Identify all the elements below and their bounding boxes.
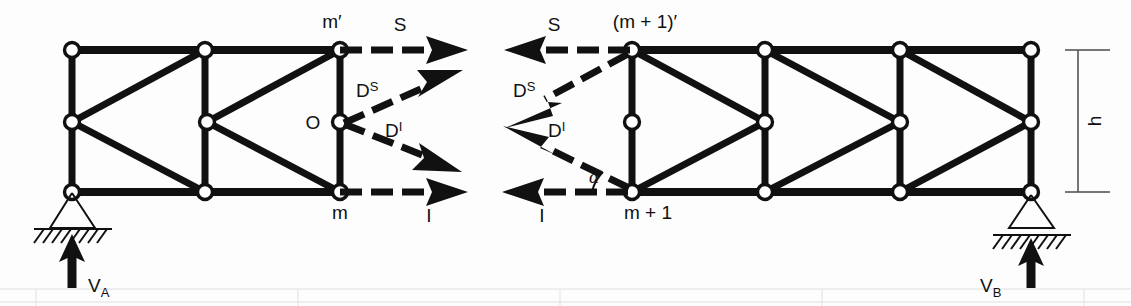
label-reaction-b: VB [980,275,1001,300]
label-reaction-a-base: V [88,275,101,296]
left-diagonal-b [72,122,205,192]
node-right-mid-2 [893,115,908,130]
label-force-s-left: S [394,14,407,35]
support-a [34,193,112,288]
label-alpha: α [589,166,600,187]
node-left-bottom-1 [198,185,213,200]
label-height-h: h [1084,116,1105,127]
node-left-mid-1 [200,115,215,130]
right-diagonal-c [765,50,900,122]
node-right-mid-0 [625,115,640,130]
label-force-di-left: DI [385,119,402,141]
force-ds-left-head [417,70,463,97]
force-i-left-head [426,178,468,206]
support-b [993,195,1071,288]
force-s-right-head [504,36,546,64]
label-reaction-b-base: V [980,275,993,296]
node-left-top-0 [65,43,80,58]
right-diagonal-f [900,122,1031,192]
node-right-mid-1 [758,115,773,130]
label-mp1-prime: (m + 1)′ [613,11,678,32]
label-reaction-a-sub: A [101,285,110,300]
left-diagonal-a [72,50,205,122]
label-reaction-b-sub: B [993,285,1002,300]
label-force-di-right-sup: I [562,119,566,134]
force-ds-right-shaft [545,54,628,99]
node-right-bottom-1 [758,185,773,200]
label-o: O [306,112,321,133]
label-m-prime: m′ [322,11,342,32]
force-i-right-head [502,178,544,206]
left-section-forces [340,36,468,206]
node-left-bottom-0 [65,185,80,200]
label-force-ds-left-base: D [356,80,370,101]
label-reaction-a: VA [88,275,110,300]
node-left-top-1 [198,43,213,58]
label-force-ds-right-sup: S [527,79,536,94]
figure-canvas: m′ m O (m + 1)′ m + 1 S I DS DI S I DS D… [0,0,1131,306]
node-right-bottom-2 [893,185,908,200]
right-section-forces [502,36,630,206]
label-force-ds-right: DS [513,79,536,101]
right-diagonal-a [632,50,765,122]
right-diagonal-b [632,122,765,192]
label-force-i-right: I [539,205,544,226]
node-right-top-3 [1024,43,1039,58]
label-m: m [332,202,348,223]
diagram-labels: m′ m O (m + 1)′ m + 1 S I DS DI S I DS D… [88,11,1105,300]
force-s-left-head [426,36,468,64]
label-force-di-left-base: D [385,120,399,141]
right-diagonal-e [900,50,1031,122]
background-grid [0,289,1131,306]
node-right-mid-3 [1024,115,1039,130]
node-right-bottom-3 [1024,185,1039,200]
right-truss [625,43,1039,200]
node-left-mid-0 [65,115,80,130]
truss-diagram: m′ m O (m + 1)′ m + 1 S I DS DI S I DS D… [0,0,1131,306]
label-force-i-left: I [426,205,431,226]
node-right-top-2 [893,43,908,58]
label-force-ds-right-base: D [513,80,527,101]
label-force-s-right: S [548,14,561,35]
label-force-di-right: DI [548,119,565,141]
label-force-ds-left-sup: S [370,79,379,94]
label-force-di-right-base: D [548,120,562,141]
node-right-top-1 [758,43,773,58]
label-force-ds-left: DS [356,79,379,101]
label-mp1: m + 1 [624,202,672,223]
right-diagonal-d [765,122,900,192]
label-force-di-left-sup: I [399,119,403,134]
